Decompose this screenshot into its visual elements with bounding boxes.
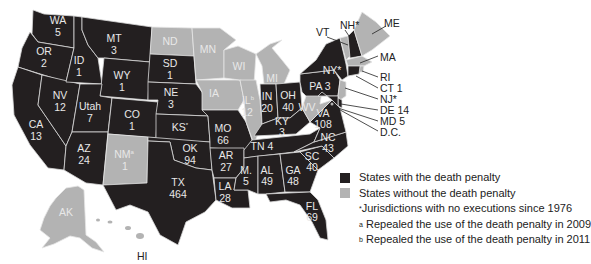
label-tn: TN 4: [251, 140, 274, 152]
value-va: 108: [314, 118, 332, 130]
label-nm: NM: [114, 148, 130, 160]
value-al: 49: [261, 175, 273, 187]
value-in: 20: [261, 102, 273, 114]
value-tx: 464: [169, 188, 187, 200]
label-vt: VT: [316, 26, 330, 38]
value-or: 2: [41, 57, 47, 69]
label-il: IL: [242, 94, 251, 106]
state-ia: [196, 80, 244, 110]
label-mo: MO: [215, 122, 232, 134]
value-ca: 13: [30, 130, 42, 142]
value-ms: 5: [243, 175, 249, 187]
value-ok: 94: [184, 154, 196, 166]
label-co: CO: [124, 108, 140, 120]
value-wy: 1: [119, 81, 125, 93]
value-ga: 48: [287, 175, 299, 187]
label-dc: D.C.: [380, 126, 401, 138]
legend-label-without: States without the death penalty: [359, 186, 516, 202]
state-ct: [348, 66, 360, 76]
state-de: [338, 98, 342, 108]
value-ar: 27: [220, 161, 232, 173]
legend-note-asterisk: *Jurisdictions with no executions since …: [340, 201, 591, 217]
label-ma: MA: [380, 51, 396, 63]
note-mark: a: [359, 217, 363, 233]
label-me: ME: [384, 17, 400, 29]
label-nh: NH*: [340, 19, 359, 31]
value-ky: 3: [279, 126, 285, 138]
legend-label-with: States with the death penalty: [359, 170, 500, 186]
label-or: OR: [36, 45, 52, 57]
legend-note-b: b Repealed the use of the death penalty …: [340, 232, 591, 248]
label-nv: NV: [53, 89, 68, 101]
value-id: 1: [76, 66, 82, 78]
label-ks: KS: [172, 121, 186, 133]
state-dc: [331, 103, 334, 106]
label-la: LA: [219, 180, 232, 192]
label-ca: CA: [29, 118, 44, 130]
label-in: IN: [262, 90, 273, 102]
label-wa: WA: [50, 14, 67, 26]
label-wv: WV: [299, 101, 316, 113]
label-id: ID: [74, 54, 85, 66]
label-wi: WI: [233, 60, 246, 72]
value-co: 1: [129, 120, 135, 132]
label-ne: NE: [164, 86, 179, 98]
legend-note-a: a Repealed the use of the death penalty …: [340, 217, 591, 233]
swatch-without: [340, 188, 350, 198]
label-ok: OK: [182, 142, 197, 154]
label-ak: AK: [59, 206, 73, 218]
label-mt: MT: [106, 32, 122, 44]
label-ny: NY*: [323, 64, 342, 76]
label-wy: WY: [114, 69, 131, 81]
value-il: 12: [241, 106, 253, 118]
label-ar: AR: [219, 149, 234, 161]
label-tx: TX: [171, 176, 184, 188]
map-legend: States with the death penalty States wit…: [340, 170, 591, 248]
note-text: Repealed the use of the death penalty in…: [366, 232, 590, 248]
label-mi: MI: [266, 72, 278, 84]
note-text: Jurisdictions with no executions since 1…: [362, 201, 572, 217]
note-text: Repealed the use of the death penalty in…: [366, 217, 591, 233]
label-sd: SD: [163, 57, 178, 69]
label-nd: ND: [162, 35, 178, 47]
value-oh: 40: [282, 101, 294, 113]
label-ut: Utah: [79, 100, 101, 112]
state-fl: [266, 192, 328, 240]
state-ak: [40, 186, 104, 252]
legend-item-with: States with the death penalty: [340, 170, 591, 186]
value-nm: 1: [122, 160, 128, 172]
value-az: 24: [78, 154, 90, 166]
label-ia: IA: [209, 87, 219, 99]
value-nv: 12: [54, 101, 66, 113]
swatch-with: [340, 173, 350, 183]
value-sd: 1: [167, 69, 173, 81]
value-wa: 5: [55, 26, 61, 38]
label-mn: MN: [200, 43, 216, 55]
note-mark: b: [359, 232, 363, 248]
value-nc: 43: [322, 142, 334, 154]
value-ut: 7: [87, 112, 93, 124]
value-ne: 3: [168, 98, 174, 110]
legend-item-without: States without the death penalty: [340, 186, 591, 202]
label-hi: HI: [137, 250, 148, 262]
label-az: AZ: [77, 142, 91, 154]
value-sc: 40: [306, 161, 318, 173]
state-hi: [96, 219, 144, 240]
label-oh: OH: [280, 89, 296, 101]
value-fl: 69: [306, 211, 318, 223]
value-mt: 3: [111, 44, 117, 56]
value-la: 28: [219, 192, 231, 204]
value-mo: 66: [217, 134, 229, 146]
label-pa: PA 3: [309, 80, 331, 92]
